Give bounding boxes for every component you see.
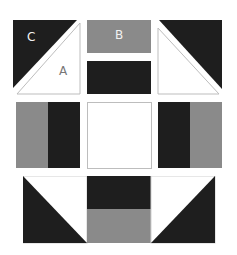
bottom-row xyxy=(23,176,216,244)
half-square-triangle-shape xyxy=(13,20,81,95)
dark-bar xyxy=(158,102,190,168)
piece-b-rectangle: B xyxy=(87,20,151,53)
top-left-unit: C A xyxy=(13,20,81,95)
half-square-triangle-shape-mirrored xyxy=(157,20,223,95)
bottom-row-shapes xyxy=(23,176,216,244)
medium-bar xyxy=(16,102,48,168)
middle-left-bars xyxy=(16,102,80,168)
dark-bar xyxy=(48,102,80,168)
label-a: A xyxy=(59,64,67,78)
label-c: C xyxy=(27,30,35,44)
medium-bar xyxy=(190,102,222,168)
center-light-square xyxy=(87,102,152,169)
top-right-unit xyxy=(157,20,223,95)
middle-right-bars xyxy=(158,102,222,168)
label-b: B xyxy=(115,28,123,42)
dark-rectangle xyxy=(87,61,151,94)
